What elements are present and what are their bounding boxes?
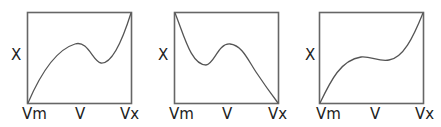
y-axis-label: X [158,48,168,63]
x-tick-mid: V [75,107,85,122]
x-tick-mid: V [222,107,232,122]
x-tick-max: Vx [415,107,434,122]
chart-panel-1: X Vm V Vx [0,0,147,127]
x-tick-max: Vx [268,107,287,122]
x-tick-min: Vm [169,107,194,122]
x-tick-mid: V [370,107,380,122]
y-axis-label: X [11,48,21,63]
y-axis-label: X [305,48,315,63]
chart-panel-3: X Vm V Vx [291,0,438,127]
x-tick-min: Vm [316,107,341,122]
x-tick-max: Vx [120,107,139,122]
x-tick-min: Vm [22,107,47,122]
chart-panel-2: X Vm V Vx [146,0,293,127]
